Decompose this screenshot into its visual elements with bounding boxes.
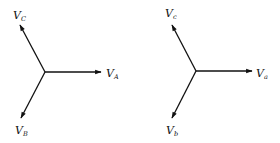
phasor-arrow-C: [20, 25, 45, 72]
phasor-diagrams: VAVCVBVaVcVb: [0, 0, 280, 143]
phasor-label-a: Va: [256, 67, 268, 81]
lowercase-phasor-set: VaVcVb: [165, 7, 268, 138]
phasor-arrow-b: [172, 71, 196, 118]
phasor-label-c: Vc: [165, 7, 177, 21]
uppercase-phasor-set: VAVCVB: [13, 9, 119, 138]
phasor-label-C: VC: [13, 9, 26, 23]
phasor-label-A: VA: [106, 67, 119, 81]
phasor-arrow-B: [21, 72, 45, 118]
phasor-arrow-c: [172, 25, 196, 71]
phasor-label-b: Vb: [166, 124, 178, 138]
phasor-label-B: VB: [15, 124, 28, 138]
